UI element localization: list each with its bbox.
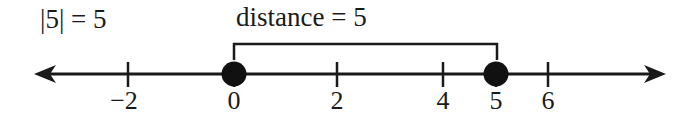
distance-label: distance = 5 (236, 2, 367, 33)
tick-label-5: 5 (476, 86, 516, 116)
point-5-dot (484, 62, 509, 87)
number-line-diagram: |5| = 5 distance = 5 −2 0 2 4 5 6 (0, 0, 691, 125)
tick-label-0: 0 (214, 86, 254, 116)
point-0-dot (222, 62, 247, 87)
tick-label-6: 6 (528, 86, 568, 116)
distance-bracket (234, 44, 497, 60)
absolute-value-equation: |5| = 5 (40, 4, 107, 35)
tick-label-4: 4 (423, 86, 463, 116)
tick-label-2: 2 (317, 86, 357, 116)
tick-label-neg2: −2 (104, 86, 144, 116)
